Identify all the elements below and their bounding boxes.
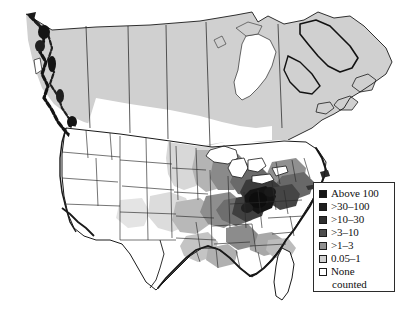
vancouver-island-blob xyxy=(38,25,50,39)
legend-swatch-none xyxy=(319,268,327,276)
legend-item-1-3: >1–3 xyxy=(319,239,394,252)
legend-item-30-100: >30–100 xyxy=(319,200,394,213)
map-figure: Above 100 >30–100 >10–30 >3–10 >1–3 0.05… xyxy=(0,0,412,319)
canada-region xyxy=(26,12,392,146)
bc-blob-3 xyxy=(48,56,56,72)
legend-label-1-3: >1–3 xyxy=(331,239,353,252)
legend-item-005-1: 0.05–1 xyxy=(319,252,394,265)
legend-label-10-30: >10–30 xyxy=(331,213,364,226)
united-states-region xyxy=(60,126,330,300)
legend-item-none: None xyxy=(319,265,394,278)
legend-label-30-100: >30–100 xyxy=(331,200,370,213)
legend-label-none-continuation: counted xyxy=(332,278,394,291)
zone-core-peak-3 xyxy=(241,203,253,213)
legend-swatch-above-100 xyxy=(319,190,327,198)
density-legend: Above 100 >30–100 >10–30 >3–10 >1–3 0.05… xyxy=(313,182,395,292)
legend-swatch-3-10 xyxy=(319,229,327,237)
legend-swatch-10-30 xyxy=(319,216,327,224)
legend-label-above-100: Above 100 xyxy=(331,187,379,200)
legend-swatch-005-1 xyxy=(319,255,327,263)
legend-item-above-100: Above 100 xyxy=(319,187,394,200)
bc-blob-4 xyxy=(56,89,64,103)
legend-swatch-30-100 xyxy=(319,203,327,211)
legend-label-none: None xyxy=(331,265,354,278)
bc-blob-2 xyxy=(35,40,45,52)
legend-label-005-1: 0.05–1 xyxy=(331,252,361,265)
legend-label-3-10: >3–10 xyxy=(331,226,359,239)
legend-swatch-1-3 xyxy=(319,242,327,250)
legend-item-3-10: >3–10 xyxy=(319,226,394,239)
legend-item-10-30: >10–30 xyxy=(319,213,394,226)
